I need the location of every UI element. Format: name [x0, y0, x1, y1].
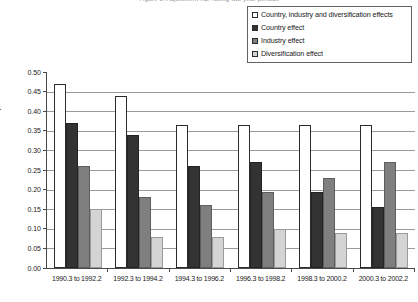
bar[interactable] [115, 96, 127, 268]
x-tick-label: 1992.3 to 1994.2 [107, 275, 168, 282]
legend-swatch-medium [252, 38, 258, 44]
x-tick [291, 268, 292, 272]
bar[interactable] [139, 197, 151, 268]
legend-item-diversification-effect[interactable]: Diversification effect [252, 50, 408, 58]
y-tick-label: 0.25 [27, 166, 43, 173]
legend-swatch-light [252, 51, 258, 57]
x-tick [107, 268, 108, 272]
bar[interactable] [212, 237, 224, 268]
y-tick-label: 0.40 [27, 107, 43, 114]
y-axis-ticks: 0.500.450.400.350.300.250.200.150.100.05… [0, 72, 46, 268]
bar[interactable] [127, 135, 139, 268]
x-tick [169, 268, 170, 272]
x-tick-label: 2000.3 to 2002.2 [353, 275, 414, 282]
x-tick [353, 268, 354, 272]
bar[interactable] [188, 166, 200, 268]
bar-group [292, 72, 353, 268]
legend-label: Industry effect [261, 37, 305, 45]
bar-groups [47, 72, 415, 268]
legend-item-country-industry-diversification[interactable]: Country, industry and diversification ef… [252, 11, 408, 19]
bar[interactable] [176, 125, 188, 268]
plot-area [46, 72, 415, 269]
bar-group [231, 72, 292, 268]
legend-label: Country, industry and diversification ef… [261, 11, 393, 19]
bar[interactable] [151, 237, 163, 268]
bar[interactable] [323, 178, 335, 268]
bar-group [47, 72, 108, 268]
bar[interactable] [360, 125, 372, 268]
x-axis-labels: 1990.3 to 1992.21992.3 to 1994.21994.3 t… [46, 275, 414, 282]
x-tick-label: 1990.3 to 1992.2 [46, 275, 107, 282]
y-tick-label: 0.45 [27, 88, 43, 95]
bar[interactable] [274, 229, 286, 268]
legend-swatch-white [252, 12, 258, 18]
bar[interactable] [262, 192, 274, 268]
bar[interactable] [299, 125, 311, 268]
y-tick-label: 0.10 [27, 225, 43, 232]
legend-item-country-effect[interactable]: Country effect [252, 24, 408, 32]
x-tick-label: 1996.3 to 1998.2 [230, 275, 291, 282]
legend-label: Country effect [261, 24, 304, 32]
legend-item-industry-effect[interactable]: Industry effect [252, 37, 408, 45]
bar[interactable] [66, 123, 78, 268]
y-tick-label: 0.05 [27, 244, 43, 251]
x-axis-ticks [46, 268, 414, 273]
y-tick-label: 0.35 [27, 127, 43, 134]
legend-swatch-dark [252, 25, 258, 31]
bar[interactable] [372, 207, 384, 268]
bar[interactable] [335, 233, 347, 268]
x-tick [414, 268, 415, 272]
y-tick-label: 0.00 [27, 264, 43, 271]
y-tick-label: 0.50 [27, 68, 43, 75]
x-tick-label: 1998.3 to 2000.2 [291, 275, 352, 282]
y-tick-label: 0.20 [27, 186, 43, 193]
bar[interactable] [200, 205, 212, 268]
chart-legend: Country, industry and diversification ef… [247, 6, 412, 63]
bar[interactable] [311, 192, 323, 268]
bar-chart: Figure 3. Adjustment R2, rolling two-yea… [0, 0, 418, 302]
bar-group [354, 72, 415, 268]
x-tick-label: 1994.3 to 1996.2 [169, 275, 230, 282]
bar[interactable] [54, 84, 66, 268]
bar[interactable] [78, 166, 90, 268]
y-tick-label: 0.15 [27, 205, 43, 212]
bar[interactable] [384, 162, 396, 268]
bar-group [170, 72, 231, 268]
chart-title: Figure 3. Adjustment R2, rolling two-yea… [0, 0, 418, 4]
bar[interactable] [396, 233, 408, 268]
y-tick-label: 0.30 [27, 146, 43, 153]
x-tick [230, 268, 231, 272]
bar-group [108, 72, 169, 268]
legend-label: Diversification effect [261, 50, 323, 58]
bar[interactable] [238, 125, 250, 268]
bar[interactable] [90, 209, 102, 268]
bar[interactable] [250, 162, 262, 268]
